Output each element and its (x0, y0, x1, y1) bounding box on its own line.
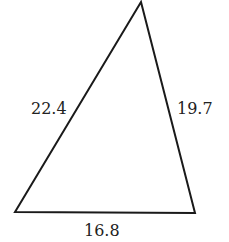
side-label-left: 22.4 (31, 100, 67, 118)
triangle-diagram: 22.4 19.7 16.8 (0, 0, 229, 242)
side-label-bottom: 16.8 (84, 222, 120, 240)
side-label-right: 19.7 (177, 100, 213, 118)
triangle-shape (0, 0, 229, 242)
